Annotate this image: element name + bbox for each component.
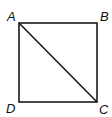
square-diagram: A B C D <box>0 0 112 117</box>
vertex-label-b: B <box>100 9 109 24</box>
diagonal-ac <box>19 23 97 102</box>
vertex-label-a: A <box>6 9 16 24</box>
vertex-label-d: D <box>6 101 15 116</box>
vertex-label-c: C <box>99 102 109 117</box>
